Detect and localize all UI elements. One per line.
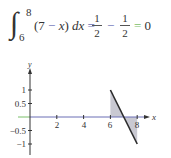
svg-text:−0.5: −0.5 — [10, 126, 27, 136]
chart: x y 2 4 6 8 1 0.5 −0.5 −1 — [0, 0, 171, 158]
svg-text:1: 1 — [22, 85, 27, 95]
svg-text:8: 8 — [135, 120, 140, 130]
svg-text:2: 2 — [55, 120, 60, 130]
svg-text:−1: −1 — [16, 139, 26, 149]
x-axis-label: x — [151, 112, 156, 122]
svg-text:0.5: 0.5 — [15, 99, 27, 109]
x-axis-arrow-icon — [144, 115, 150, 119]
y-axis-label: y — [27, 60, 32, 69]
svg-text:6: 6 — [108, 120, 113, 130]
svg-text:4: 4 — [82, 120, 87, 130]
